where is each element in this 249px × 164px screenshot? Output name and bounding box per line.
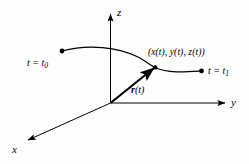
y-axis-label: y [231,97,236,108]
position-vector-label: r(t) [131,85,144,95]
end-point-label-text: t = t [208,65,225,76]
curve-point-label: (x(t), y(t), z(t)) [148,48,205,58]
space-curve-figure: z y x t = t0 t = t1 (x(t), y(t), z(t)) r… [0,0,249,164]
start-point-label-subscript: 0 [44,61,48,70]
x-axis-label: x [12,144,17,155]
figure-canvas [0,0,249,164]
position-vector-argument: (t) [135,84,144,95]
end-point-label: t = t1 [208,66,229,78]
start-point-label: t = t0 [27,58,48,70]
start-point-label-text: t = t [27,57,44,68]
end-point-dot [199,69,204,74]
start-point-dot [60,49,65,54]
x-axis [28,103,111,140]
z-axis-label: z [117,7,121,18]
end-point-label-subscript: 1 [225,69,229,78]
curve-point-dot [153,65,157,69]
